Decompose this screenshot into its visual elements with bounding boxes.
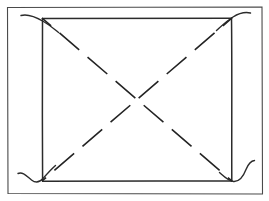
figure-svg: Hand-drawn rectangle with crossed diagon… <box>0 0 269 201</box>
page-background <box>0 0 269 201</box>
diagram-canvas: Hand-drawn rectangle with crossed diagon… <box>0 0 269 201</box>
